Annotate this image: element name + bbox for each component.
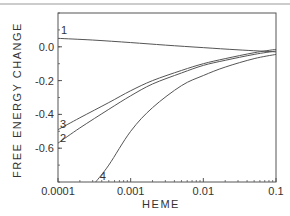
curve-1: [58, 38, 276, 52]
curve-label-4: 4: [100, 170, 106, 182]
plot-frame: [58, 13, 276, 182]
curve-labels: 1324: [60, 24, 106, 182]
y-axis-title: FREE ENERGY CHANGE: [11, 22, 23, 178]
curve-label-1: 1: [61, 24, 67, 36]
y-tick-label: -0.2: [35, 75, 54, 87]
curve-label-3: 3: [60, 118, 66, 130]
curve-label-2: 2: [60, 132, 66, 144]
x-tick-label: 0.01: [193, 185, 214, 197]
y-tick-label: -0.4: [35, 108, 54, 120]
y-tick-label: -0.6: [35, 142, 54, 154]
curves: [58, 38, 276, 182]
curve-4: [96, 54, 276, 182]
x-axis-title: HEME: [142, 198, 180, 210]
x-tick-label: 0.0001: [41, 185, 75, 197]
y-tick-label: 0.0: [39, 41, 54, 53]
chart: 0.0-0.2-0.4-0.6 0.00010.0010.010.1 1324 …: [0, 0, 290, 216]
x-tick-label: 0.1: [268, 185, 283, 197]
x-tick-label: 0.001: [117, 185, 145, 197]
curve-2: [58, 51, 276, 143]
